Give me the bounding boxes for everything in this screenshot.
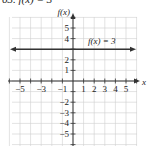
x-tick-label: 5: [124, 84, 129, 94]
y-tick-label: −2: [59, 97, 69, 107]
x-tick-label: −1: [58, 84, 68, 94]
x-tick-label: 2: [92, 84, 97, 94]
x-axis-label: x: [141, 77, 146, 87]
x-tick-label: 1: [81, 84, 86, 94]
y-tick-label: −5: [59, 129, 69, 139]
y-tick-label: 5: [65, 23, 70, 33]
y-tick-label: 1: [65, 65, 70, 75]
line-right-arrow-icon: [130, 47, 136, 52]
y-tick-label: 2: [65, 55, 70, 65]
x-tick-label: 3: [103, 84, 108, 94]
y-axis-arrow-icon: [71, 13, 76, 19]
function-graph: −5−3−1123455421−2−3−4−5xf(x)f(x) = 3: [0, 0, 147, 146]
x-tick-label: −3: [36, 84, 46, 94]
y-tick-label: 4: [65, 34, 70, 44]
x-tick-label: 4: [113, 84, 118, 94]
function-annotation: f(x) = 3: [88, 36, 116, 46]
y-axis-label: f(x): [58, 7, 71, 17]
x-tick-label: −5: [15, 84, 25, 94]
y-tick-label: −4: [59, 118, 69, 128]
y-tick-label: −3: [59, 108, 69, 118]
line-left-arrow-icon: [10, 47, 16, 52]
